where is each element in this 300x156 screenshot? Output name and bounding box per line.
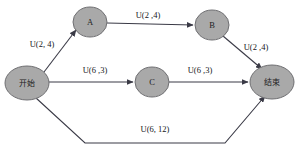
node-A[interactable]: A	[73, 7, 107, 37]
diagram-canvas: U(2, 4) U(2 ,4) U(2 ,4) U(6 ,3) U(6 ,3) …	[0, 0, 300, 156]
node-end[interactable]: 结束	[250, 65, 294, 99]
node-C-label: C	[149, 77, 155, 87]
edge-start-end	[36, 96, 265, 143]
edge-label-start-end: U(6, 12)	[141, 124, 170, 134]
node-start[interactable]: 开始	[5, 66, 49, 100]
node-B-label: B	[209, 20, 215, 30]
edge-label-start-C: U(6 ,3)	[83, 65, 108, 75]
node-B[interactable]: B	[195, 10, 229, 40]
edge-label-B-end: U(2 ,4)	[244, 42, 269, 52]
node-end-label: 结束	[264, 77, 280, 87]
edge-label-start-A: U(2, 4)	[30, 39, 55, 49]
node-group: 开始 A B C 结束	[5, 7, 294, 100]
edge-label-A-B: U(2 ,4)	[136, 10, 161, 20]
edge-start-A	[44, 30, 76, 72]
edge-A-B	[107, 23, 193, 25]
node-start-label: 开始	[19, 78, 35, 88]
edge-B-end	[223, 36, 262, 69]
edge-label-C-end: U(6 ,3)	[188, 65, 213, 75]
network-diagram: U(2, 4) U(2 ,4) U(2 ,4) U(6 ,3) U(6 ,3) …	[0, 0, 300, 156]
node-A-label: A	[87, 17, 94, 27]
node-C[interactable]: C	[135, 67, 169, 97]
